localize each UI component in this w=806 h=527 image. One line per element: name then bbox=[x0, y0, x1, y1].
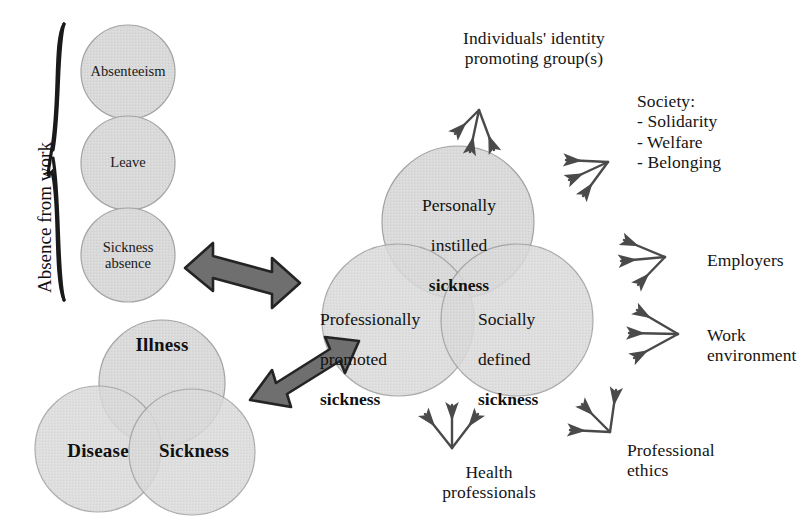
influence-label-society: Society: - Solidarity - Welfare - Belong… bbox=[637, 91, 797, 172]
influence-label-health-professionals: Health professionals bbox=[414, 462, 564, 503]
diagram-canvas: Absence from work Absenteeism Leave Sick… bbox=[0, 0, 806, 527]
work-environment-arrows bbox=[629, 310, 678, 358]
employers-arrows bbox=[621, 240, 665, 285]
circle-label-leave: Leave bbox=[78, 154, 178, 170]
absence-from-work-label: Absence from work bbox=[34, 142, 56, 293]
influence-label-employers: Employers bbox=[707, 250, 806, 270]
concept-venn-circles bbox=[35, 320, 255, 515]
society-arrows bbox=[566, 160, 608, 196]
circle-label-absenteeism: Absenteeism bbox=[78, 63, 178, 79]
professional-ethics-arrows bbox=[570, 390, 616, 432]
circle-label-sickness-absence: Sickness absence bbox=[78, 239, 178, 271]
health-professionals-arrows bbox=[425, 405, 478, 448]
absence-to-sickness-arrow bbox=[185, 243, 300, 308]
sickness-venn-circles bbox=[322, 146, 593, 396]
influence-label-professional-ethics: Professional ethics bbox=[627, 440, 757, 481]
influence-label-work-environment: Work environment bbox=[707, 325, 806, 366]
influence-label-individuals-identity: Individuals' identity promoting group(s) bbox=[419, 28, 649, 69]
